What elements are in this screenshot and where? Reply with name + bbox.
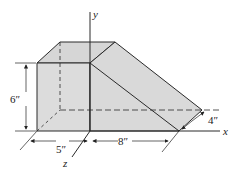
x-axis-label: x (222, 125, 228, 137)
z-axis-label: z (62, 157, 68, 169)
prism-diagram: y x z 6″ 5″ 8″ 4″ (0, 0, 239, 172)
solid-body (37, 42, 220, 131)
dimension-length: 8″ (93, 131, 179, 152)
dimension-5-label: 5″ (56, 143, 66, 155)
dimension-height: 6″ (10, 63, 36, 131)
dimension-4-label: 4″ (208, 114, 218, 126)
dimension-8-label: 8″ (118, 135, 128, 147)
y-axis-label: y (92, 8, 98, 20)
dimension-width: 5″ (20, 131, 87, 155)
dimension-6-label: 6″ (10, 93, 20, 105)
